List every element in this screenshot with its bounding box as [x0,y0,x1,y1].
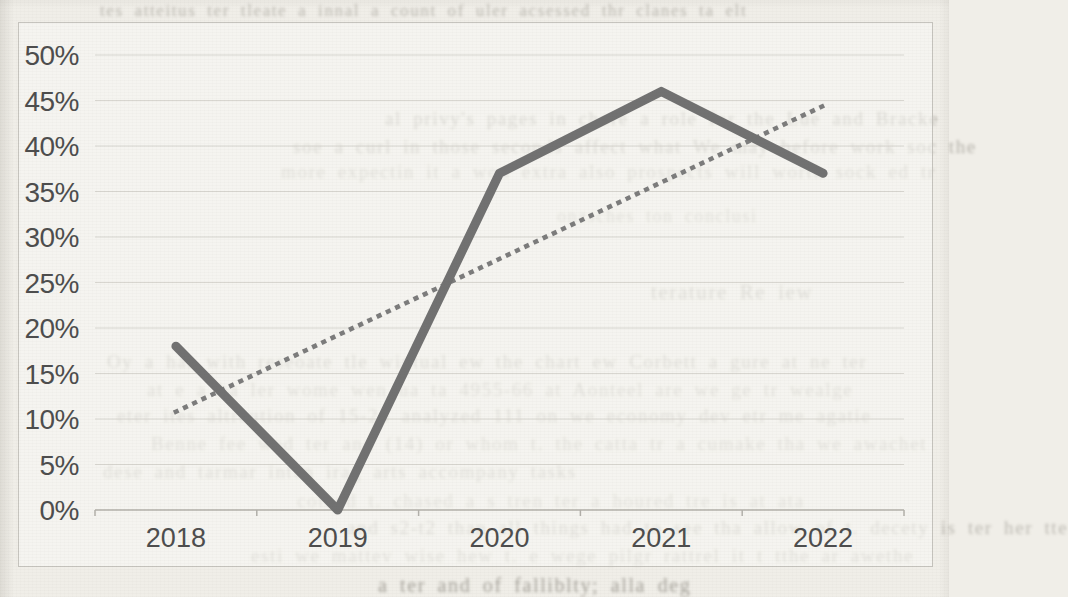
trendline-dotted [176,106,823,412]
data-series-line [176,91,823,510]
